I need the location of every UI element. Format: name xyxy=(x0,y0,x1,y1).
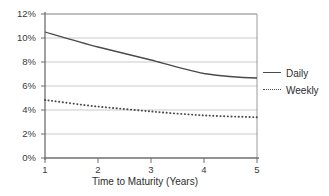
series-line-daily xyxy=(45,32,257,78)
line-chart: 12% 10% 8% 6% 4% 2% 0% 1 2 3 4 5 Time to… xyxy=(0,0,329,196)
y-tick-label-2: 2% xyxy=(6,129,36,139)
y-tick-label-4: 4% xyxy=(6,105,36,115)
legend-label-weekly: Weekly xyxy=(286,85,319,96)
y-tick-label-12: 12% xyxy=(6,9,36,19)
x-axis-ticks xyxy=(45,158,257,163)
series-line-weekly xyxy=(45,100,257,117)
legend-item-daily: Daily xyxy=(263,66,308,80)
x-tick-label-1: 1 xyxy=(35,165,55,175)
x-tick-label-2: 2 xyxy=(88,165,108,175)
y-tick-label-8: 8% xyxy=(6,57,36,67)
x-tick-label-3: 3 xyxy=(141,165,161,175)
y-tick-label-10: 10% xyxy=(6,33,36,43)
y-tick-label-0: 0% xyxy=(6,153,36,163)
x-axis-title: Time to Maturity (Years) xyxy=(0,176,290,187)
legend-item-weekly: Weekly xyxy=(263,83,319,97)
legend-line-dotted-icon xyxy=(263,86,281,94)
legend-label-daily: Daily xyxy=(286,68,308,79)
y-tick-label-6: 6% xyxy=(6,81,36,91)
x-tick-label-5: 5 xyxy=(247,165,267,175)
legend-line-solid-icon xyxy=(263,69,281,77)
gridlines xyxy=(45,14,257,134)
x-tick-label-4: 4 xyxy=(194,165,214,175)
